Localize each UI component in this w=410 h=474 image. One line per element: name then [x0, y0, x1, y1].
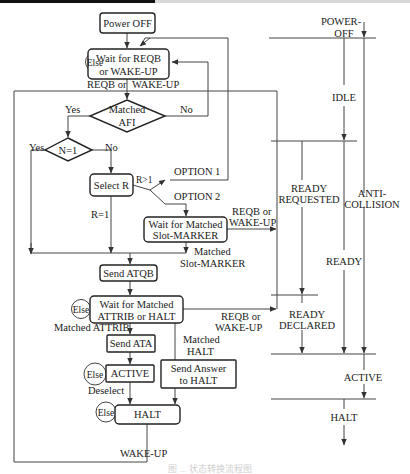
svg-text:Select R: Select R [94, 180, 129, 191]
matched-label: Matched [194, 246, 231, 257]
else-label: Else [87, 58, 103, 68]
node-matched-afi: Matched AFI [90, 100, 165, 132]
no-label: No [180, 104, 193, 115]
svg-text:Wait for REQB: Wait for REQB [96, 53, 161, 64]
option-1-label: OPTION 1 [174, 166, 220, 177]
svg-text:Send ATQB: Send ATQB [103, 268, 153, 279]
no-label: No [105, 142, 118, 153]
yes-label: Yes [65, 104, 80, 115]
state-ready-requested: REQUESTED [278, 194, 340, 205]
node-wait-attrib-halt: Wait for Matched ATTRIB or HALT [90, 296, 183, 323]
svg-text:Send ATA: Send ATA [110, 338, 153, 349]
svg-text:or WAKE-UP: or WAKE-UP [99, 66, 158, 77]
wake-up-label: WAKE-UP [229, 217, 276, 228]
state-ready-declared: DECLARED [279, 320, 335, 331]
state-power-off: OFF [334, 28, 353, 39]
matched-halt-label: Matched [183, 334, 220, 345]
deselect-label: Deselect [88, 385, 124, 396]
yes-label: Yes [29, 142, 44, 153]
r-gt-1-label: R>1 [136, 175, 153, 185]
else-label: Else [73, 305, 89, 315]
wake-up-label: WAKE-UP [132, 79, 179, 90]
else-label: Else [98, 408, 114, 418]
node-n-equals-1: N=1 [45, 138, 92, 161]
svg-text:ATTRIB or HALT: ATTRIB or HALT [98, 311, 176, 322]
reqb-or-label: REQB or [232, 206, 272, 217]
option-2-label: OPTION 2 [174, 191, 220, 202]
svg-text:Wait for Matched: Wait for Matched [100, 299, 175, 310]
svg-text:Send Answer: Send Answer [171, 363, 227, 374]
matched-attrib-label: Matched ATTRIB [54, 322, 130, 333]
node-active: ACTIVE [106, 365, 154, 382]
node-send-ata: Send ATA [107, 335, 155, 352]
node-send-atqb: Send ATQB [100, 265, 157, 281]
state-ready-declared: READY [289, 309, 326, 320]
svg-text:AFI: AFI [119, 117, 136, 128]
state-ready: READY [326, 256, 363, 267]
state-idle: IDLE [332, 92, 356, 103]
node-wait-slot-marker: Wait for Matched Slot-MARKER [144, 217, 227, 242]
reqb-or-label: REQB or [87, 79, 127, 90]
state-anti-collision: ANTI- [358, 188, 387, 199]
figure-caption: 图 ... 状态转换流程图 [168, 463, 251, 474]
flow-connectors [14, 33, 277, 462]
svg-text:N=1: N=1 [59, 145, 78, 156]
wake-up-label: WAKE-UP [215, 322, 262, 333]
svg-text:to HALT: to HALT [180, 375, 218, 386]
node-power-off: Power OFF [100, 13, 155, 33]
state-active: ACTIVE [344, 372, 383, 383]
svg-text:HALT: HALT [134, 409, 162, 420]
svg-text:Wait for Matched: Wait for Matched [149, 219, 224, 230]
svg-text:Power OFF: Power OFF [103, 18, 152, 29]
svg-text:Matched: Matched [109, 104, 146, 115]
matched-halt-label: HALT [187, 346, 215, 357]
slot-marker-label: Slot-MARKER [180, 258, 245, 269]
wake-up-bottom-label: WAKE-UP [120, 448, 167, 459]
r-eq-1-label: R=1 [91, 209, 109, 220]
state-ready-requested: READY [291, 183, 328, 194]
node-select-r: Select R [90, 174, 133, 196]
reqb-or-label: REQB or [221, 311, 261, 322]
flowchart-diagram: Power OFF Wait for REQB or WAKE-UP Else … [0, 0, 410, 474]
state-halt: HALT [330, 412, 358, 423]
state-power-off: POWER- [321, 16, 362, 27]
node-halt: HALT [115, 405, 180, 424]
state-anti-collision: COLLISION [344, 199, 400, 210]
svg-text:Slot-MARKER: Slot-MARKER [153, 230, 218, 241]
else-label: Else [87, 370, 103, 380]
node-send-answer-halt: Send Answer to HALT [161, 360, 236, 388]
svg-text:ACTIVE: ACTIVE [111, 368, 150, 379]
